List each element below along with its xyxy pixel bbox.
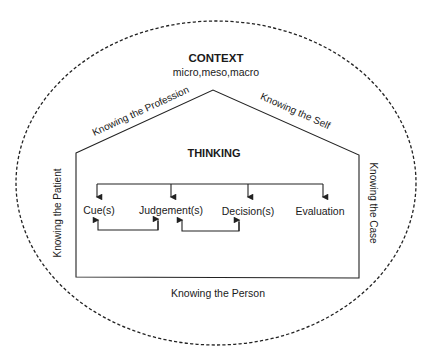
step-judgements: Judgement(s) (139, 204, 203, 216)
left-wall-label: Knowing the Patient (52, 168, 63, 257)
right-wall-label: Knowing the Case (368, 162, 379, 244)
thinking-title: THINKING (187, 147, 240, 159)
context-subtitle: micro,meso,macro (173, 66, 260, 78)
step-evaluation: Evaluation (295, 205, 344, 217)
floor-label: Knowing the Person (171, 287, 265, 299)
roof-left-label: Knowing the Profession (91, 84, 191, 138)
step-decisions: Decision(s) (222, 205, 275, 217)
roof-right-label: Knowing the Self (259, 91, 332, 132)
step-cues: Cue(s) (83, 204, 115, 216)
context-title: CONTEXT (189, 52, 244, 64)
feedback-loop-decision-to-judgement (182, 220, 239, 231)
clinical-reasoning-diagram: CONTEXT micro,meso,macro Knowing the Pro… (0, 0, 432, 358)
feedback-loop-judgement-to-cue (98, 220, 158, 230)
